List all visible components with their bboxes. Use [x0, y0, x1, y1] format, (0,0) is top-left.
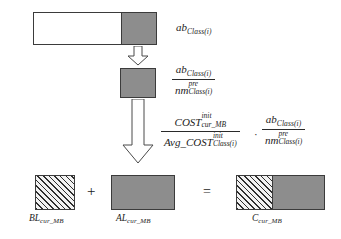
- plus-operator: +: [87, 183, 95, 200]
- stage3-fraction-left: COST init cur_MB Avg_COST init Class(i): [161, 113, 240, 150]
- bl-cur-mb-label: BLcur_MB: [29, 213, 64, 225]
- stage1-symbol: ab: [176, 21, 187, 33]
- c-cur-mb-box-gray-part: [272, 175, 325, 210]
- al-label-subscript: cur_MB: [127, 217, 151, 225]
- bl-cur-mb-box: [35, 175, 75, 210]
- stage2-den-symbol: nm: [175, 84, 188, 96]
- equals-operator: =: [203, 184, 211, 200]
- stage3-right-num-subscript: Class(i): [277, 119, 302, 128]
- stage2-fraction-denominator: nm pre Class(i): [172, 81, 215, 98]
- stage2-gray-square: [120, 68, 156, 98]
- stage3-right-den-supsub: pre Class(i): [278, 132, 302, 147]
- figure-canvas: abClass(i) abClass(i) nm pre Class(i) CO…: [0, 0, 341, 239]
- stage1-subscript: Class(i): [187, 27, 212, 36]
- stage3-left-num-superscript: init: [202, 112, 227, 120]
- stage1-label-ab-class: abClass(i): [176, 22, 212, 35]
- stage3-multiply-operator: ·: [254, 128, 258, 140]
- stage3-left-den-superscript: init: [213, 132, 237, 140]
- al-label-symbol: AL: [116, 213, 127, 223]
- al-cur-mb-box: [111, 175, 175, 210]
- bl-label-subscript: cur_MB: [40, 217, 64, 225]
- stage3-left-den-subscript: Class(i): [213, 140, 237, 148]
- bl-label-symbol: BL: [29, 213, 40, 223]
- stage3-left-num-subscript: cur_MB: [202, 121, 227, 129]
- c-cur-mb-label: Ccur_MB: [252, 213, 282, 225]
- stage1-bar-white-segment: [33, 12, 122, 45]
- stage2-num-symbol: ab: [176, 63, 187, 75]
- stage3-right-denominator: nm pre Class(i): [262, 131, 305, 148]
- stage3-left-numerator: COST init cur_MB: [161, 113, 240, 130]
- stage2-fraction-numerator: abClass(i): [172, 63, 215, 78]
- stage3-right-numerator: abClass(i): [262, 113, 305, 128]
- stage3-right-num-symbol: ab: [266, 113, 277, 125]
- arrow-down-stage2-to-stage3: [120, 99, 156, 165]
- stage3-right-den-superscript: pre: [278, 130, 302, 138]
- c-label-subscript: cur_MB: [258, 217, 282, 225]
- stage3-left-num-symbol: COST: [175, 116, 202, 128]
- stage3-left-den-symbol: Avg_COST: [164, 136, 213, 148]
- stage2-fraction: abClass(i) nm pre Class(i): [172, 63, 215, 98]
- stage3-right-den-symbol: nm: [265, 134, 278, 146]
- c-cur-mb-box-hatched-part: [236, 175, 273, 210]
- stage2-den-supsub: pre Class(i): [188, 82, 212, 97]
- stage3-left-denominator: Avg_COST init Class(i): [161, 133, 240, 150]
- stage2-den-subscript: Class(i): [188, 88, 212, 96]
- stage3-left-num-supsub: init cur_MB: [202, 114, 227, 129]
- stage1-bar-gray-segment: [121, 12, 157, 45]
- arrow-down-stage1-to-stage2: [126, 46, 150, 66]
- stage2-den-superscript: pre: [188, 80, 212, 88]
- stage2-num-subscript: Class(i): [187, 69, 212, 78]
- stage3-left-den-supsub: init Class(i): [213, 134, 237, 149]
- stage3-fraction-right: abClass(i) nm pre Class(i): [262, 113, 305, 148]
- al-cur-mb-label: ALcur_MB: [116, 213, 151, 225]
- stage3-right-den-subscript: Class(i): [278, 138, 302, 146]
